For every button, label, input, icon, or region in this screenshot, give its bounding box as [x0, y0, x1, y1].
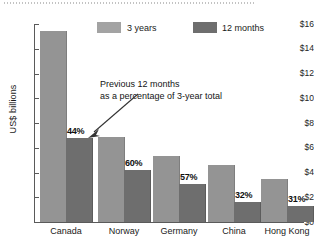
bar-percentage-label: 60%	[125, 158, 142, 168]
x-axis-line	[34, 222, 304, 223]
bar-12-months	[179, 184, 206, 222]
bar-3-years	[40, 31, 67, 222]
bar-percentage-label: 44%	[67, 126, 84, 136]
annotation-arrow-icon	[84, 92, 140, 140]
bar-group: 31%	[261, 24, 313, 222]
bar-3-years	[208, 165, 235, 222]
annotation-line-1: Previous 12 months	[100, 79, 222, 91]
bar-group: 32%	[208, 24, 260, 222]
bar-chart: US$ billions $16$14$12$10$8$6$4$2$0 3 ye…	[0, 0, 314, 251]
bar-percentage-label: 31%	[288, 194, 305, 204]
y-axis-title: US$ billions	[8, 69, 18, 149]
bar-12-months	[234, 202, 261, 222]
bar-group: 57%	[153, 24, 205, 222]
category-label: Hong Kong	[251, 226, 314, 236]
bar-12-months	[66, 138, 93, 222]
bar-3-years	[153, 156, 180, 222]
bar-12-months	[287, 206, 314, 222]
bar-3-years	[98, 137, 125, 222]
bar-3-years	[261, 179, 288, 222]
plot-area: 44%60%57%32%31%	[35, 24, 304, 222]
bar-12-months	[124, 170, 151, 222]
bar-percentage-label: 32%	[235, 190, 252, 200]
scan-artifact-line	[4, 2, 256, 4]
y-axis-tick	[34, 222, 39, 223]
bar-percentage-label: 57%	[180, 172, 197, 182]
